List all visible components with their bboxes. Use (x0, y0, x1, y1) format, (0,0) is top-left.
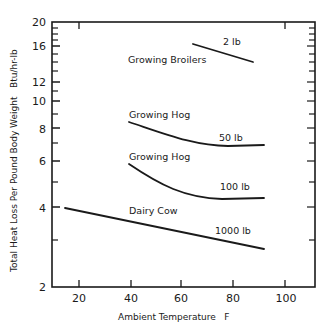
x-tick-100: 100 (276, 292, 297, 305)
hog-50lb-label: Growing Hog (129, 109, 190, 120)
hog-50lb-curve (129, 122, 264, 146)
right-y-ticks (307, 28, 315, 240)
y-axis-title: Total Heat Loss Per Pound Body Weight Bt… (9, 49, 19, 273)
y-tick-labels: 20 16 12 10 8 6 4 2 (32, 16, 46, 294)
x-tick-labels: 20 40 60 80 100 (72, 292, 297, 305)
x-tick-60: 60 (174, 292, 188, 305)
y-tick-20: 20 (32, 16, 46, 29)
y-tick-16: 16 (32, 40, 46, 53)
y-major-ticks (52, 46, 60, 207)
x-tick-80: 80 (226, 292, 240, 305)
chart: 20 16 12 10 8 6 4 2 20 40 60 80 100 Ambi… (0, 0, 331, 329)
y-tick-10: 10 (32, 95, 46, 108)
dairy-cow-weight-label: 1000 lb (215, 225, 251, 236)
x-tick-20: 20 (72, 292, 86, 305)
hog-100lb-weight-label: 100 lb (220, 181, 250, 192)
broilers-weight-label: 2 lb (223, 36, 241, 47)
hog-100lb-label: Growing Hog (129, 151, 190, 162)
x-tick-40: 40 (124, 292, 138, 305)
y-minor-ticks (52, 28, 58, 240)
y-tick-12: 12 (32, 76, 46, 89)
hog-50lb-weight-label: 50 lb (219, 132, 243, 143)
y-tick-4: 4 (39, 202, 46, 215)
dairy-cow-label: Dairy Cow (129, 205, 178, 216)
y-tick-6: 6 (39, 155, 46, 168)
y-tick-2: 2 (39, 281, 46, 294)
broilers-label: Growing Broilers (128, 54, 206, 65)
x-axis-title: Ambient Temperature F (118, 312, 230, 322)
y-tick-8: 8 (39, 123, 46, 136)
